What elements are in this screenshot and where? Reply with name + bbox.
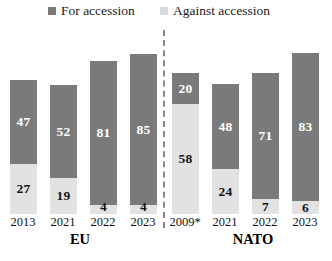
bar-value-against: 58: [179, 152, 193, 166]
bar-nato-2023: 83 6: [292, 53, 319, 214]
x-tick-label: 2021: [43, 214, 83, 230]
legend-item-against-accession: Against accession: [160, 4, 270, 18]
x-tick-label: 2022: [245, 214, 285, 230]
plot-area: 47 27 52 19 81 4 85: [0, 28, 332, 214]
group-labels: EU NATO: [0, 231, 332, 251]
x-tick-label: 2021: [205, 214, 245, 230]
caption-sliver: [0, 255, 332, 261]
x-tick-label: 2023: [123, 214, 163, 230]
legend-item-for-accession: For accession: [48, 4, 135, 18]
bar-segment-for: 71: [252, 73, 279, 199]
bar-value-against: 4: [140, 200, 147, 214]
x-axis: 2013 2021 2022 2023 2009* 2021 2022 2023: [0, 214, 332, 232]
bar-value-against: 6: [302, 201, 309, 215]
group-label-nato: NATO: [218, 231, 288, 248]
x-tick-label: 2023: [285, 214, 325, 230]
bar-value-against: 27: [17, 182, 31, 196]
chart-legend: For accession Against accession: [0, 4, 332, 24]
bar-eu-2023: 85 4: [130, 54, 157, 214]
bar-value-for: 47: [17, 115, 31, 129]
bar-value-against: 4: [100, 200, 107, 214]
bar-eu-2021: 52 19: [50, 85, 77, 214]
bar-segment-for: 47: [10, 80, 37, 164]
stacked-bar-chart: For accession Against accession 47 27 52…: [0, 0, 332, 261]
bar-eu-2022: 81 4: [90, 61, 117, 214]
legend-label-against-accession: Against accession: [173, 4, 270, 18]
bar-segment-against: 27: [10, 164, 37, 214]
bar-segment-against: 19: [50, 178, 77, 214]
x-tick-label: 2013: [3, 214, 43, 230]
group-divider: [163, 30, 165, 228]
group-label-eu: EU: [50, 231, 110, 248]
bar-value-for: 48: [219, 120, 233, 134]
bar-eu-2013: 47 27: [10, 80, 37, 214]
bar-segment-against: 4: [90, 205, 117, 214]
x-tick-label: 2009*: [165, 214, 205, 230]
bar-segment-for: 83: [292, 53, 319, 201]
bar-segment-for: 48: [212, 84, 239, 169]
bar-value-for: 81: [97, 126, 111, 140]
bar-value-for: 20: [179, 82, 193, 96]
bar-value-for: 52: [57, 125, 71, 139]
bar-segment-against: 24: [212, 169, 239, 214]
bar-segment-for: 85: [130, 54, 157, 205]
bar-segment-against: 58: [172, 104, 199, 214]
bar-segment-against: 6: [292, 201, 319, 214]
square-swatch-icon: [48, 7, 56, 15]
bar-nato-2009: 20 58: [172, 73, 199, 214]
bar-segment-for: 81: [90, 61, 117, 205]
bar-value-against: 19: [57, 189, 71, 203]
bar-value-for: 85: [137, 123, 151, 137]
bar-nato-2022: 71 7: [252, 73, 279, 214]
bar-segment-for: 52: [50, 85, 77, 178]
bar-value-for: 83: [299, 120, 313, 134]
bar-nato-2021: 48 24: [212, 84, 239, 214]
bar-value-against: 7: [262, 200, 269, 214]
bar-segment-for: 20: [172, 73, 199, 104]
bar-value-against: 24: [219, 185, 233, 199]
square-swatch-icon: [160, 7, 168, 15]
bar-segment-against: 7: [252, 199, 279, 214]
bar-value-for: 71: [259, 129, 273, 143]
bar-segment-against: 4: [130, 205, 157, 214]
x-tick-label: 2022: [83, 214, 123, 230]
legend-label-for-accession: For accession: [61, 4, 135, 18]
